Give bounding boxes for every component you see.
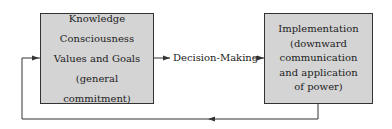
box-line: communication <box>280 51 358 66</box>
box-line: Values and Goals <box>54 49 140 69</box>
box-line: and application <box>279 66 357 81</box>
knowledge-values-box: Knowledge Consciousness Values and Goals… <box>40 13 154 104</box>
box-line: Implementation <box>278 22 358 37</box>
arrowhead-icon <box>32 56 39 61</box>
arrowhead-icon <box>208 117 215 122</box>
box-line: of power) <box>294 80 342 95</box>
arrowhead-icon <box>163 56 170 61</box>
box-line: Knowledge <box>69 9 125 29</box>
box-line: Consciousness <box>60 29 134 49</box>
box-line: (downward <box>290 37 347 52</box>
box-line: (general commitment) <box>41 69 153 109</box>
decision-making-label: Decision-Making <box>173 52 258 63</box>
implementation-box: Implementation (downward communication a… <box>264 13 373 104</box>
